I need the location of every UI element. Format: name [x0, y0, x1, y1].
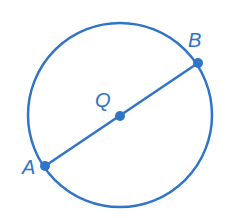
label-q: Q: [95, 89, 111, 111]
circle-diagram: A Q B: [0, 0, 229, 218]
label-a: A: [21, 156, 35, 178]
point-b: [193, 58, 203, 68]
label-b: B: [188, 29, 201, 51]
point-q-center: [115, 111, 125, 121]
point-a: [40, 161, 50, 171]
